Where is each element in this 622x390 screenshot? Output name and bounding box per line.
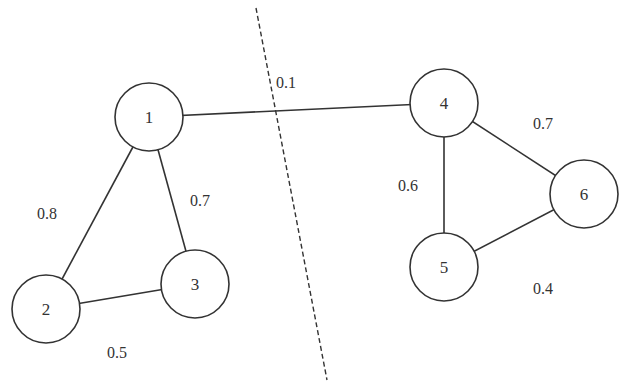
node-6: 6: [550, 160, 618, 228]
cut-line: [256, 8, 327, 380]
node-label: 6: [580, 185, 589, 204]
node-4: 4: [410, 69, 478, 137]
edge-weight-label: 0.7: [190, 192, 210, 209]
nodes-group: 123456: [12, 69, 618, 343]
edge-weight-label: 0.5: [107, 344, 127, 361]
node-label: 5: [440, 258, 449, 277]
edge-weight-label: 0.4: [533, 280, 553, 297]
node-label: 2: [42, 300, 51, 319]
node-2: 2: [12, 275, 80, 343]
node-label: 1: [145, 108, 154, 127]
edge-1-4: [149, 103, 444, 117]
node-3: 3: [161, 250, 229, 318]
node-label: 3: [191, 275, 200, 294]
edge-weight-label: 0.1: [276, 74, 296, 91]
node-1: 1: [115, 83, 183, 151]
edge-weight-label: 0.7: [533, 115, 553, 132]
node-5: 5: [410, 233, 478, 301]
edge-weight-label: 0.8: [37, 205, 57, 222]
edge-weight-label: 0.6: [398, 177, 418, 194]
node-label: 4: [440, 94, 449, 113]
graph-diagram: 123456 0.80.70.50.10.60.70.4: [0, 0, 622, 390]
